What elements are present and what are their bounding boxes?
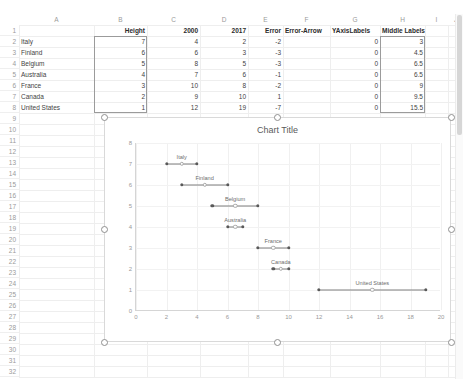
mid-marker-belgium[interactable] bbox=[233, 204, 237, 208]
row-header-7[interactable]: 7 bbox=[0, 91, 19, 102]
cell-c-2000-australia[interactable]: 7 bbox=[147, 69, 200, 80]
cell-c-2000-belgium[interactable]: 8 bbox=[147, 58, 200, 69]
row-header-8[interactable]: 8 bbox=[0, 102, 19, 113]
cell-c-2000-france[interactable]: 10 bbox=[147, 80, 200, 91]
column-header-a[interactable]: A bbox=[19, 14, 95, 25]
cell-h-middle-labels-united-states[interactable]: 15.5 bbox=[380, 102, 425, 113]
column-header-e[interactable]: E bbox=[248, 14, 284, 25]
row-header-11[interactable]: 11 bbox=[0, 135, 19, 146]
row-header-4[interactable]: 4 bbox=[0, 58, 19, 69]
data-point-france-end[interactable] bbox=[256, 246, 259, 249]
row-header-30[interactable]: 30 bbox=[0, 344, 19, 355]
mid-marker-canada[interactable] bbox=[279, 267, 283, 271]
cell-f1-error-arrow-header[interactable]: Error-Arrow bbox=[283, 25, 330, 36]
mid-marker-italy[interactable] bbox=[180, 162, 184, 166]
cell-a-name-belgium[interactable]: Belgium bbox=[19, 58, 94, 69]
mid-marker-australia[interactable] bbox=[233, 225, 237, 229]
data-point-italy-start[interactable] bbox=[195, 162, 198, 165]
row-header-20[interactable]: 20 bbox=[0, 234, 19, 245]
resize-handle-bottom-right[interactable] bbox=[448, 339, 455, 346]
row-header-15[interactable]: 15 bbox=[0, 179, 19, 190]
cell-h-middle-labels-australia[interactable]: 6.5 bbox=[380, 69, 425, 80]
cell-b-height-italy[interactable]: 7 bbox=[94, 36, 147, 47]
cell-e-error-united-states[interactable]: -7 bbox=[248, 102, 283, 113]
data-point-australia-start[interactable] bbox=[241, 225, 244, 228]
column-header-d[interactable]: D bbox=[200, 14, 249, 25]
cell-d-2017-united-states[interactable]: 19 bbox=[200, 102, 248, 113]
cell-h1-middle-labels-header[interactable]: Middle Labels bbox=[380, 25, 425, 36]
column-header-f[interactable]: F bbox=[283, 14, 331, 25]
cell-b-height-finland[interactable]: 6 bbox=[94, 47, 147, 58]
data-point-finland-start[interactable] bbox=[226, 183, 229, 186]
row-header-22[interactable]: 22 bbox=[0, 256, 19, 267]
row-header-14[interactable]: 14 bbox=[0, 168, 19, 179]
cell-c-2000-canada[interactable]: 9 bbox=[147, 91, 200, 102]
row-header-2[interactable]: 2 bbox=[0, 36, 19, 47]
cell-h-middle-labels-canada[interactable]: 9.5 bbox=[380, 91, 425, 102]
cell-h-middle-labels-belgium[interactable]: 6.5 bbox=[380, 58, 425, 69]
cell-g1-yaxislabels-header[interactable]: YAxisLabels bbox=[330, 25, 380, 36]
row-header-13[interactable]: 13 bbox=[0, 157, 19, 168]
chart-title[interactable]: Chart Title bbox=[105, 125, 450, 135]
cell-c-2000-united-states[interactable]: 12 bbox=[147, 102, 200, 113]
cell-d-2017-france[interactable]: 8 bbox=[200, 80, 248, 91]
row-header-3[interactable]: 3 bbox=[0, 47, 19, 58]
cell-e-error-australia[interactable]: -1 bbox=[248, 69, 283, 80]
data-point-belgium-start[interactable] bbox=[256, 204, 259, 207]
cell-b-height-canada[interactable]: 2 bbox=[94, 91, 147, 102]
column-header-b[interactable]: B bbox=[94, 14, 148, 25]
row-header-19[interactable]: 19 bbox=[0, 223, 19, 234]
row-header-21[interactable]: 21 bbox=[0, 245, 19, 256]
row-header-29[interactable]: 29 bbox=[0, 333, 19, 344]
cell-d-2017-finland[interactable]: 3 bbox=[200, 47, 248, 58]
cell-a-name-france[interactable]: France bbox=[19, 80, 94, 91]
cell-g-yaxislabels-france[interactable]: 0 bbox=[330, 80, 380, 91]
row-header-23[interactable]: 23 bbox=[0, 267, 19, 278]
row-header-1[interactable]: 1 bbox=[0, 25, 19, 36]
row-header-25[interactable]: 25 bbox=[0, 289, 19, 300]
cell-e-error-belgium[interactable]: -3 bbox=[248, 58, 283, 69]
cell-e-error-finland[interactable]: -3 bbox=[248, 47, 283, 58]
column-header-c[interactable]: C bbox=[147, 14, 201, 25]
row-header-24[interactable]: 24 bbox=[0, 278, 19, 289]
cell-h-middle-labels-france[interactable]: 9 bbox=[380, 80, 425, 91]
cell-a-name-finland[interactable]: Finland bbox=[19, 47, 94, 58]
row-header-5[interactable]: 5 bbox=[0, 69, 19, 80]
chart-plot-area[interactable]: 02468101214161820012345678ItalyFinlandBe… bbox=[135, 143, 440, 311]
cell-c-2000-italy[interactable]: 4 bbox=[147, 36, 200, 47]
resize-handle-bottom-center[interactable] bbox=[274, 339, 281, 346]
cell-g-yaxislabels-canada[interactable]: 0 bbox=[330, 91, 380, 102]
row-header-31[interactable]: 31 bbox=[0, 355, 19, 366]
resize-handle-bottom-left[interactable] bbox=[101, 339, 108, 346]
row-header-28[interactable]: 28 bbox=[0, 322, 19, 333]
cell-g-yaxislabels-italy[interactable]: 0 bbox=[330, 36, 380, 47]
cell-d-2017-australia[interactable]: 6 bbox=[200, 69, 248, 80]
mid-marker-france[interactable] bbox=[271, 246, 275, 250]
cell-g-yaxislabels-united-states[interactable]: 0 bbox=[330, 102, 380, 113]
cell-h-middle-labels-finland[interactable]: 4.5 bbox=[380, 47, 425, 58]
mid-marker-united-states[interactable] bbox=[370, 288, 374, 292]
resize-handle-middle-left[interactable] bbox=[101, 226, 108, 233]
resize-handle-top-left[interactable] bbox=[101, 114, 108, 121]
resize-handle-top-right[interactable] bbox=[448, 114, 455, 121]
column-header-i[interactable]: I bbox=[425, 14, 449, 25]
cell-d-2017-canada[interactable]: 10 bbox=[200, 91, 248, 102]
row-header-18[interactable]: 18 bbox=[0, 212, 19, 223]
data-point-italy-end[interactable] bbox=[165, 162, 168, 165]
cell-b-height-france[interactable]: 3 bbox=[94, 80, 147, 91]
cell-e-error-france[interactable]: -2 bbox=[248, 80, 283, 91]
resize-handle-middle-right[interactable] bbox=[448, 226, 455, 233]
column-header-g[interactable]: G bbox=[330, 14, 381, 25]
data-point-belgium-end[interactable] bbox=[211, 204, 214, 207]
data-point-canada-end[interactable] bbox=[287, 267, 290, 270]
row-header-12[interactable]: 12 bbox=[0, 146, 19, 157]
cell-d-2017-italy[interactable]: 2 bbox=[200, 36, 248, 47]
cell-g-yaxislabels-finland[interactable]: 0 bbox=[330, 47, 380, 58]
cell-d-2017-belgium[interactable]: 5 bbox=[200, 58, 248, 69]
cell-a-name-italy[interactable]: Italy bbox=[19, 36, 94, 47]
cell-h-middle-labels-italy[interactable]: 3 bbox=[380, 36, 425, 47]
mid-marker-finland[interactable] bbox=[202, 183, 206, 187]
row-header-16[interactable]: 16 bbox=[0, 190, 19, 201]
row-header-6[interactable]: 6 bbox=[0, 80, 19, 91]
row-header-17[interactable]: 17 bbox=[0, 201, 19, 212]
